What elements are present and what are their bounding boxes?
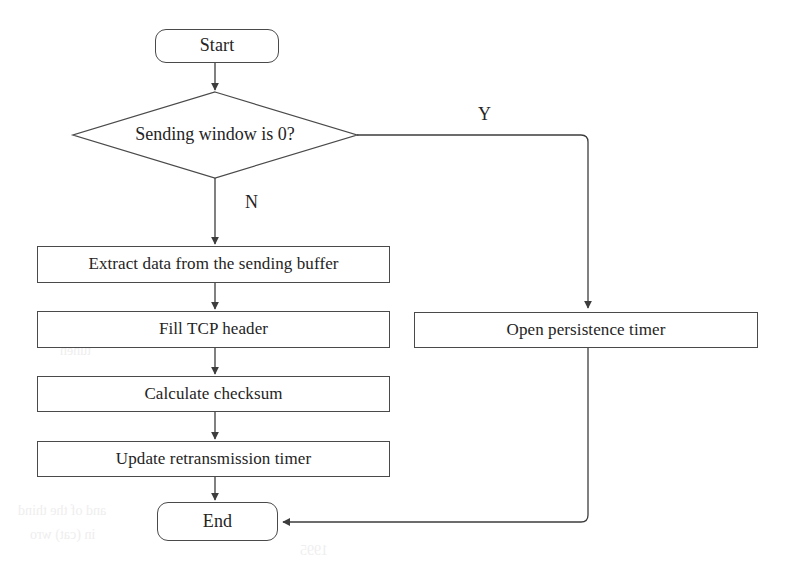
node-calculate-checksum-label: Calculate checksum (144, 385, 282, 404)
node-extract-data-label: Extract data from the sending buffer (88, 255, 338, 274)
node-start-label: Start (200, 36, 235, 56)
node-decision-label: Sending window is 0? (73, 124, 357, 145)
edge-persist-to-end (283, 348, 588, 522)
node-end[interactable]: End (157, 502, 278, 541)
edge-label-no: N (245, 192, 258, 213)
node-start[interactable]: Start (155, 29, 279, 63)
node-update-retransmission-timer[interactable]: Update retransmission timer (37, 441, 390, 477)
node-fill-tcp-header[interactable]: Fill TCP header (37, 311, 390, 348)
node-calculate-checksum[interactable]: Calculate checksum (37, 376, 390, 412)
node-end-label: End (203, 512, 232, 532)
edge-label-yes: Y (478, 104, 491, 125)
node-open-persistence-timer[interactable]: Open persistence timer (414, 312, 758, 348)
node-update-retransmission-timer-label: Update retransmission timer (116, 450, 311, 469)
node-open-persistence-timer-label: Open persistence timer (507, 321, 666, 340)
edge-decision-yes-to-persist (357, 135, 588, 308)
flowchart-connectors (0, 0, 790, 569)
node-fill-tcp-header-label: Fill TCP header (159, 320, 268, 339)
node-extract-data[interactable]: Extract data from the sending buffer (37, 246, 390, 283)
